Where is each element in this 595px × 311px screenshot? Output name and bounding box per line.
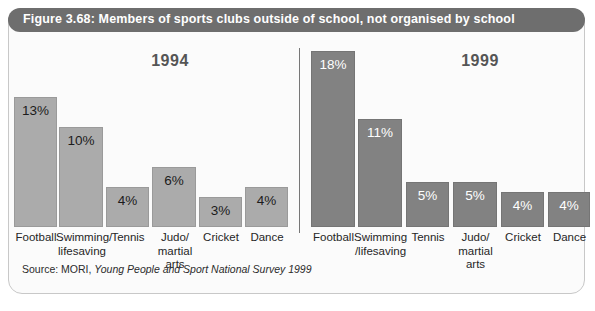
category-label-1994-cricket: Cricket (196, 231, 246, 245)
bar-value: 4% (107, 193, 148, 208)
bar-1994-football: 13% (14, 97, 57, 227)
category-label-1999-judo: Judo/ martial arts (452, 231, 499, 272)
bar-1994-tennis: 4% (106, 187, 149, 227)
bar-1999-dance: 4% (548, 192, 590, 227)
panel-title-1999: 1999 (430, 52, 530, 70)
category-label-1994-tennis: Tennis (104, 231, 152, 245)
category-label-1999-swimming: Swimming /lifesaving (354, 231, 407, 258)
bar-value: 5% (454, 188, 496, 203)
bar-value: 4% (246, 193, 287, 208)
category-label-1999-football: Football (307, 231, 360, 245)
bar-value: 18% (312, 57, 354, 72)
bar-1999-cricket: 4% (501, 192, 544, 227)
category-label-1994-dance: Dance (243, 231, 291, 245)
bar-1999-swimming: 11% (358, 119, 402, 227)
bar-value: 4% (502, 198, 543, 213)
category-label-1999-cricket: Cricket (498, 231, 548, 245)
bar-value: 10% (60, 133, 102, 148)
category-label-1994-swimming: Swimming/ lifesaving (56, 231, 108, 258)
category-label-1999-dance: Dance (546, 231, 593, 245)
bar-1994-swimming: 10% (59, 127, 103, 227)
bar-value: 3% (200, 203, 241, 218)
bar-1999-tennis: 5% (406, 182, 449, 227)
bar-1999-judo: 5% (453, 182, 497, 227)
bar-value: 5% (407, 188, 448, 203)
bar-1994-dance: 4% (245, 187, 288, 227)
source-prefix: Source: MORI, (22, 263, 91, 275)
source-title: Young People and Sport National Survey 1… (94, 263, 311, 275)
bar-value: 11% (359, 125, 401, 140)
bar-value: 13% (15, 103, 56, 118)
category-label-1994-football: Football (9, 231, 63, 245)
source-note: Source: MORI, Young People and Sport Nat… (22, 263, 312, 275)
figure-title: Figure 3.68: Members of sports clubs out… (23, 12, 515, 26)
category-label-1999-tennis: Tennis (404, 231, 452, 245)
panel-title-1994: 1994 (120, 52, 220, 70)
bar-value: 6% (153, 173, 195, 188)
panel-divider (299, 48, 300, 233)
bar-1994-cricket: 3% (199, 197, 242, 227)
bar-value: 4% (549, 198, 589, 213)
bar-1999-football: 18% (311, 51, 355, 227)
bar-1994-judo: 6% (152, 167, 196, 227)
